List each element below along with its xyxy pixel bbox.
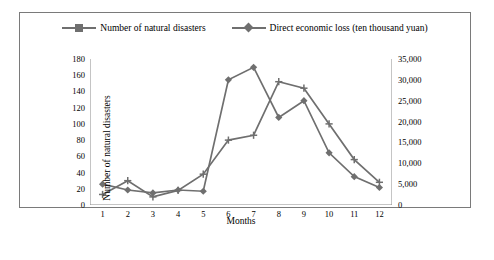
- legend-item-economic-loss: Direct economic loss (ten thousand yuan): [232, 23, 428, 33]
- y-axis-left-tick: 180: [72, 54, 85, 64]
- y-axis-left-tick: 120: [72, 103, 85, 113]
- y-axis-left-tick: 40: [77, 168, 86, 178]
- y-axis-left-tick: 140: [72, 86, 85, 96]
- y-axis-left-tick: 80: [77, 135, 86, 145]
- y-axis-left-tick: 0: [81, 200, 85, 210]
- y-axis-right-tick: 35,000: [398, 54, 421, 64]
- y-axis-left-tick: 160: [72, 70, 85, 80]
- legend-marker-cross-icon: [62, 27, 96, 29]
- y-axis-left-title: Number of natural disasters: [102, 73, 112, 223]
- y-axis-right-tick: 0: [398, 200, 402, 210]
- x-axis-title: Months: [90, 216, 392, 226]
- plot-svg: [90, 59, 392, 205]
- y-axis-right-tick: 20,000: [398, 117, 421, 127]
- legend-marker-diamond-icon: [232, 27, 266, 29]
- chart-frame: Number of natural disasters Direct econo…: [19, 12, 471, 208]
- legend-label-economic-loss: Direct economic loss (ten thousand yuan): [270, 23, 428, 33]
- legend-label-disasters: Number of natural disasters: [100, 23, 205, 33]
- legend-item-disasters: Number of natural disasters: [62, 23, 205, 33]
- y-axis-left-tick: 60: [77, 151, 86, 161]
- y-axis-left-tick: 20: [77, 184, 86, 194]
- y-axis-right-tick: 30,000: [398, 75, 421, 85]
- y-axis-right-tick: 10,000: [398, 158, 421, 168]
- y-axis-left-tick: 100: [72, 119, 85, 129]
- chart-legend: Number of natural disasters Direct econo…: [20, 23, 470, 33]
- plot-area: 020406080100120140160180 05,00010,00015,…: [90, 59, 392, 205]
- y-axis-right-tick: 15,000: [398, 137, 421, 147]
- y-axis-right-tick: 5,000: [398, 179, 417, 189]
- y-axis-right-tick: 25,000: [398, 96, 421, 106]
